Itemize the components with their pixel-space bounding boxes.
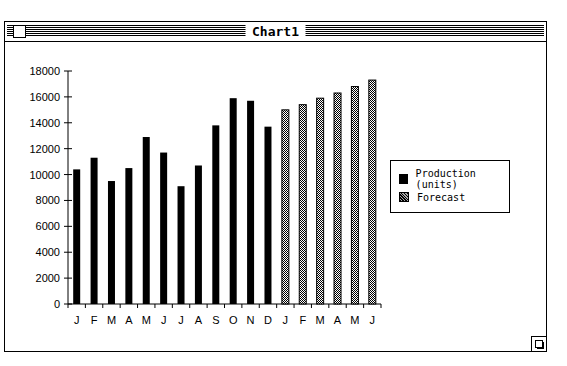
forecast-bar [299,105,306,304]
production-bar [230,98,237,304]
production-bar [125,168,132,304]
x-tick-label: A [334,314,342,326]
y-tick-label: 10000 [29,169,60,181]
production-bar [91,158,98,304]
x-tick-label: J [161,314,167,326]
production-bar [143,137,150,304]
y-tick-label: 16000 [29,91,60,103]
x-tick-label: O [229,314,238,326]
production-bar [212,125,219,304]
forecast-bar [334,93,341,304]
legend-label: Production (units) [416,168,509,190]
forecast-bar [369,80,376,304]
x-tick-label: M [316,314,325,326]
y-tick-label: 0 [54,298,60,310]
x-tick-label: M [142,314,151,326]
x-tick-label: S [212,314,219,326]
production-bar [73,169,80,304]
production-bar [195,165,202,304]
x-tick-label: J [370,314,376,326]
forecast-bar [317,98,324,304]
y-tick-label: 8000 [36,194,60,206]
y-tick-label: 4000 [36,246,60,258]
x-tick-label: N [247,314,255,326]
x-tick-label: F [299,314,306,326]
x-tick-label: F [91,314,98,326]
pattern-swatch-icon [399,192,409,202]
production-bar [247,101,254,304]
production-bar [178,186,185,304]
x-tick-label: A [125,314,133,326]
legend-item-forecast: Forecast [399,191,465,203]
x-tick-label: J [283,314,289,326]
chart-legend: Production (units) Forecast [390,160,510,213]
solid-swatch-icon [399,174,408,184]
production-bar [160,153,167,304]
legend-item-production: Production (units) [399,173,509,185]
forecast-bar [351,87,358,304]
production-bar [264,127,271,304]
legend-label: Forecast [417,192,465,203]
production-bar [108,181,115,304]
x-tick-label: A [195,314,203,326]
y-tick-label: 18000 [29,65,60,77]
x-tick-label: M [107,314,116,326]
x-tick-label: D [264,314,272,326]
x-tick-label: J [74,314,80,326]
y-tick-label: 2000 [36,272,60,284]
y-tick-label: 6000 [36,220,60,232]
y-tick-label: 12000 [29,143,60,155]
x-tick-label: M [350,314,359,326]
forecast-bar [282,110,289,304]
x-tick-label: J [178,314,184,326]
y-tick-label: 14000 [29,117,60,129]
